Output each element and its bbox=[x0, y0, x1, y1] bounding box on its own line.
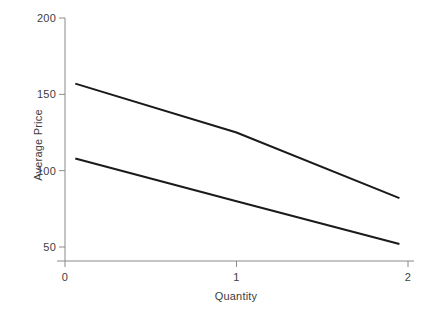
y-axis-label: Average Price bbox=[32, 109, 44, 181]
axis-ticks bbox=[59, 18, 408, 267]
y-tick-label: 150 bbox=[20, 88, 56, 100]
chart-figure: 20015010050 012 Average Price Quantity bbox=[0, 0, 429, 313]
series-line-lower-line bbox=[75, 158, 399, 244]
x-axis-label: Quantity bbox=[215, 290, 258, 302]
x-tick-label: 1 bbox=[233, 271, 239, 283]
series-line-upper-line bbox=[75, 84, 399, 198]
plot-area bbox=[0, 0, 429, 313]
x-tick-label: 0 bbox=[62, 271, 68, 283]
y-tick-label: 200 bbox=[20, 12, 56, 24]
x-tick-label: 2 bbox=[405, 271, 411, 283]
y-tick-label: 50 bbox=[20, 241, 56, 253]
data-series bbox=[75, 84, 399, 244]
axis-lines bbox=[57, 18, 414, 261]
